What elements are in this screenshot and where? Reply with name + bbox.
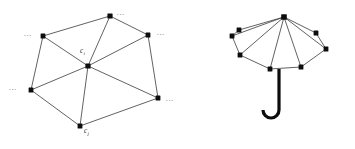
ellipsis-right-lower: ... xyxy=(166,95,174,103)
vertex-label-subscript: j xyxy=(87,131,90,136)
ellipsis-left-upper: ... xyxy=(24,30,32,38)
vertex-label-bottom: cj xyxy=(84,127,90,136)
ellipsis-left-lower: ... xyxy=(9,84,17,92)
umbrella-vertex-tip-7 xyxy=(314,31,319,36)
graph-edge xyxy=(31,66,88,90)
umbrella-vertex-tip-4 xyxy=(268,67,273,72)
umbrella-rim-segment xyxy=(240,55,270,69)
graph-vertex-left xyxy=(29,88,34,93)
umbrella-vertex-tip-2 xyxy=(230,34,235,39)
graph-vertex-upper-left xyxy=(41,34,46,39)
vertex-label-center: ci xyxy=(80,47,86,56)
graph-edge xyxy=(88,35,148,66)
umbrella-ribs xyxy=(232,17,326,69)
umbrella-rib xyxy=(270,17,284,69)
umbrella-vertex-tip-5 xyxy=(299,65,304,70)
umbrella-rib xyxy=(232,17,284,36)
graph-vertex-top xyxy=(107,13,112,18)
graph-vertices xyxy=(29,13,161,128)
graph-vertex-center xyxy=(85,63,90,68)
graph-edge xyxy=(88,16,110,66)
graph-edge xyxy=(31,90,80,126)
graph-vertex-bottom xyxy=(78,124,83,129)
graph-edge xyxy=(110,16,148,35)
graph-edge xyxy=(43,16,110,36)
vertex-label-subscript: i xyxy=(84,51,86,56)
umbrella-handle-path xyxy=(263,69,279,118)
umbrella-handle xyxy=(263,69,279,118)
ellipsis-right-upper: ... xyxy=(157,29,165,37)
umbrella-vertex-apex xyxy=(281,14,287,20)
graph-vertex-upper-right xyxy=(146,33,151,38)
graph-edge xyxy=(31,36,43,90)
figure-canvas: cicj ............... xyxy=(0,0,355,149)
umbrella-vertex-tip-1 xyxy=(237,28,242,33)
umbrella-rim-segment xyxy=(232,36,240,55)
graph-edge xyxy=(148,35,158,98)
umbrella-rib xyxy=(284,17,326,49)
graph-edge xyxy=(88,66,158,98)
umbrella-rib xyxy=(240,17,284,55)
umbrella-vertex-tip-3 xyxy=(238,53,243,58)
graph-vertex-right xyxy=(156,96,161,101)
graph-edges xyxy=(31,16,158,126)
umbrella-panel xyxy=(230,14,329,118)
umbrella-rib xyxy=(239,17,284,30)
umbrella-rim-segment xyxy=(301,49,326,67)
umbrella-vertices xyxy=(230,14,329,71)
graph-edge xyxy=(80,98,158,126)
umbrella-rim-segment xyxy=(270,67,301,69)
figure-root: cicj ............... xyxy=(0,0,355,149)
graph-edge xyxy=(80,66,88,126)
umbrella-vertex-tip-6 xyxy=(324,47,329,52)
ellipsis-top-right: ... xyxy=(117,9,125,17)
triangulated-graph-panel: cicj ............... xyxy=(9,9,174,136)
